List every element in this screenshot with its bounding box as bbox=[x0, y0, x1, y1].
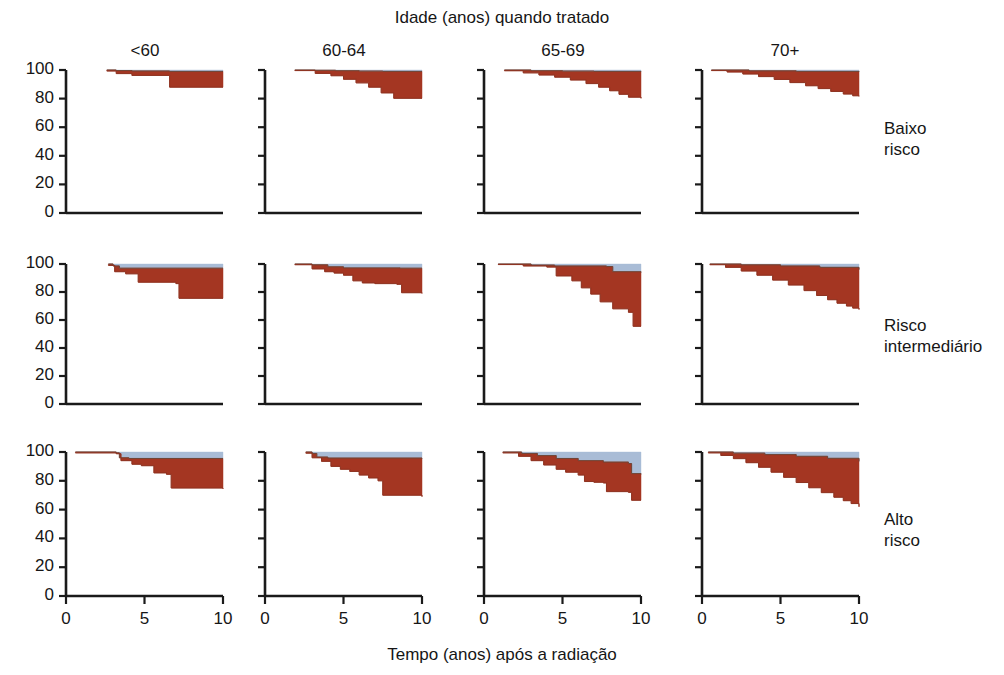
area-cancer bbox=[306, 452, 422, 497]
xtick-label-c2-2: 10 bbox=[624, 609, 658, 629]
ytick-label-r2-1: 20 bbox=[8, 556, 54, 576]
xtick-label-c1-2: 10 bbox=[405, 609, 439, 629]
y-axis-2-0 bbox=[59, 452, 66, 596]
panel-2-2 bbox=[477, 452, 641, 604]
ytick-label-r2-3: 60 bbox=[8, 499, 54, 519]
panel-0-3 bbox=[695, 70, 859, 213]
panel-1-2 bbox=[477, 264, 641, 404]
ytick-label-r0-1: 20 bbox=[8, 173, 54, 193]
ytick-label-r2-4: 80 bbox=[8, 470, 54, 490]
ytick-label-r0-0: 0 bbox=[8, 202, 54, 222]
panel-0-1 bbox=[258, 70, 422, 213]
area-cancer bbox=[708, 452, 859, 507]
y-axis-0-3 bbox=[695, 70, 702, 213]
y-axis-1-2 bbox=[477, 264, 484, 404]
y-axis-2-3 bbox=[695, 452, 702, 596]
ytick-label-r1-1: 20 bbox=[8, 365, 54, 385]
plot-canvas bbox=[0, 0, 1004, 675]
y-axis-0-1 bbox=[258, 70, 265, 213]
y-axis-1-1 bbox=[258, 264, 265, 404]
ytick-label-r1-0: 0 bbox=[8, 393, 54, 413]
ytick-label-r1-4: 80 bbox=[8, 281, 54, 301]
x-axis-2-1 bbox=[265, 596, 422, 604]
ytick-label-r2-0: 0 bbox=[8, 585, 54, 605]
figure-root: Idade (anos) quando tratado <60 60-64 65… bbox=[0, 0, 1004, 675]
panel-1-3 bbox=[695, 264, 859, 404]
ytick-label-r1-3: 60 bbox=[8, 309, 54, 329]
area-cancer bbox=[498, 264, 641, 326]
xtick-label-c3-2: 10 bbox=[842, 609, 876, 629]
ytick-label-r0-3: 60 bbox=[8, 116, 54, 136]
ytick-label-r2-2: 40 bbox=[8, 527, 54, 547]
xtick-label-c3-0: 0 bbox=[685, 609, 719, 629]
panel-0-2 bbox=[477, 70, 641, 213]
area-cancer bbox=[108, 264, 223, 298]
ytick-label-r0-4: 80 bbox=[8, 88, 54, 108]
area-other-causes bbox=[108, 264, 223, 268]
y-axis-0-0 bbox=[59, 70, 66, 213]
x-axis-2-2 bbox=[484, 596, 641, 604]
area-cancer bbox=[295, 70, 422, 98]
xtick-label-c1-1: 5 bbox=[327, 609, 361, 629]
xtick-label-c0-2: 10 bbox=[206, 609, 240, 629]
x-axis-2-3 bbox=[702, 596, 859, 604]
ytick-label-r2-5: 100 bbox=[8, 441, 54, 461]
panel-2-3 bbox=[695, 452, 859, 604]
xtick-label-c2-0: 0 bbox=[467, 609, 501, 629]
y-axis-1-3 bbox=[695, 264, 702, 404]
y-axis-2-2 bbox=[477, 452, 484, 596]
y-axis-1-0 bbox=[59, 264, 66, 404]
panel-1-1 bbox=[258, 264, 422, 404]
panel-0-0 bbox=[59, 70, 223, 213]
xtick-label-c0-1: 5 bbox=[128, 609, 162, 629]
panel-2-0 bbox=[59, 452, 223, 604]
xtick-label-c2-1: 5 bbox=[546, 609, 580, 629]
y-axis-0-2 bbox=[477, 70, 484, 213]
xtick-label-c0-0: 0 bbox=[49, 609, 83, 629]
panel-2-1 bbox=[258, 452, 422, 604]
ytick-label-r0-5: 100 bbox=[8, 59, 54, 79]
panel-1-0 bbox=[59, 264, 223, 404]
ytick-label-r1-5: 100 bbox=[8, 253, 54, 273]
area-cancer bbox=[107, 70, 223, 87]
ytick-label-r0-2: 40 bbox=[8, 145, 54, 165]
xtick-label-c1-0: 0 bbox=[248, 609, 282, 629]
y-axis-2-1 bbox=[258, 452, 265, 596]
area-cancer bbox=[711, 70, 859, 96]
ytick-label-r1-2: 40 bbox=[8, 337, 54, 357]
xtick-label-c3-1: 5 bbox=[764, 609, 798, 629]
x-axis-2-0 bbox=[66, 596, 223, 604]
